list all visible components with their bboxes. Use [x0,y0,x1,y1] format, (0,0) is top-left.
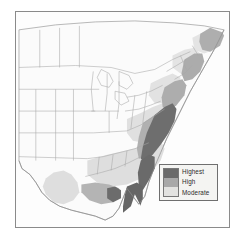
legend-label-column: Highest High Moderate [182,167,215,198]
map-legend: Highest High Moderate [159,164,218,201]
map-frame: Highest High Moderate [15,11,230,228]
legend-swatch-high [164,178,178,187]
legend-label-highest: Highest [182,167,215,177]
map-figure: Highest High Moderate [0,0,252,245]
legend-swatch-highest [164,169,178,178]
legend-swatch-column [163,168,179,197]
legend-swatch-moderate [164,187,178,196]
legend-label-moderate: Moderate [182,188,215,198]
legend-label-high: High [182,177,215,187]
